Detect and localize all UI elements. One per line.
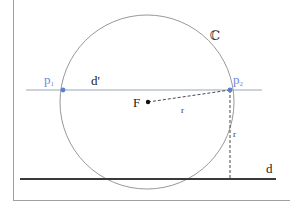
label-focus: F — [133, 95, 140, 110]
label-circle-c: ℂ — [210, 28, 220, 43]
label-distance: r — [233, 129, 236, 139]
geometry-diagram: ℂ p1 p2 d' F r r d — [0, 0, 290, 206]
point-p1 — [61, 88, 66, 93]
label-p1-sub: 1 — [51, 80, 55, 88]
label-radius: r — [181, 105, 184, 115]
label-d: d — [266, 161, 273, 176]
label-p2-sub: 2 — [240, 80, 244, 88]
label-d-prime: d' — [91, 73, 100, 88]
radius-dashed-line — [148, 90, 230, 102]
label-p1: p1 — [44, 72, 55, 88]
focus-point — [146, 100, 150, 104]
point-p2 — [228, 88, 233, 93]
label-p2: p2 — [233, 72, 244, 88]
